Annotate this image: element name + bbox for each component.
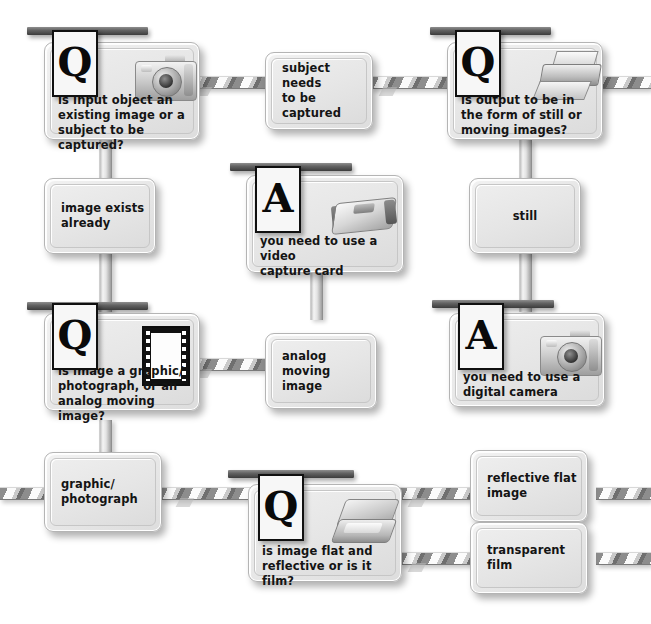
node-label: you need to use a digital camera <box>463 370 596 400</box>
placard-letter: Q <box>54 305 96 365</box>
placard-letter: A <box>460 305 502 365</box>
placard-q: Q <box>52 30 98 97</box>
node-label: is input object an existing image or a s… <box>58 93 191 153</box>
flowchart-canvas: is input object an existing image or a s… <box>0 0 651 624</box>
node-label: image exists already <box>61 201 147 231</box>
node-still[interactable]: still <box>469 178 581 254</box>
node-subject-needs-captured[interactable]: subject needs to be captured <box>265 52 373 130</box>
node-label: reflective flat image <box>487 471 579 501</box>
node-label: is image flat and reflective or is it fi… <box>262 544 393 589</box>
node-label: is image a graphic/ photograph, or an an… <box>58 364 191 424</box>
node-label: analog moving image <box>282 349 368 394</box>
connector-v-output-to-still <box>519 140 532 180</box>
scanner-icon <box>335 499 395 547</box>
node-image-exists-already[interactable]: image exists already <box>44 178 156 254</box>
connector-nub <box>379 87 398 96</box>
placard-q: Q <box>258 474 304 541</box>
video-capture-card-icon <box>332 196 396 238</box>
connector-h-left-edge-stub <box>0 487 44 500</box>
node-label: transparent film <box>487 543 579 573</box>
connector-h-transparent-offpage <box>596 552 651 565</box>
connector-h-reflective-offpage <box>596 487 651 500</box>
node-reflective-flat-image[interactable]: reflective flat image <box>470 450 588 522</box>
node-label: you need to use a video capture card <box>260 234 395 279</box>
placard-letter: Q <box>54 32 96 92</box>
placard-q: Q <box>455 30 501 97</box>
connector-nub <box>408 563 427 572</box>
placard-letter: A <box>257 168 299 228</box>
node-label: still <box>470 209 580 224</box>
node-transparent-film[interactable]: transparent film <box>470 522 588 594</box>
placard-q: Q <box>52 303 98 370</box>
node-graphic-photograph[interactable]: graphic/ photograph <box>44 452 162 532</box>
placard-letter: Q <box>260 476 302 536</box>
placard-a: A <box>255 166 301 233</box>
node-analog-moving-image[interactable]: analog moving image <box>265 333 377 409</box>
node-label: is output to be in the form of still or … <box>461 93 594 138</box>
placard-letter: Q <box>457 32 499 92</box>
connector-nub <box>176 498 195 507</box>
connector-v-vcard-to-analog <box>310 272 323 320</box>
placard-a: A <box>458 303 504 370</box>
node-label: subject needs to be captured <box>282 61 364 121</box>
connector-nub <box>408 498 427 507</box>
node-label: graphic/ photograph <box>61 477 153 507</box>
